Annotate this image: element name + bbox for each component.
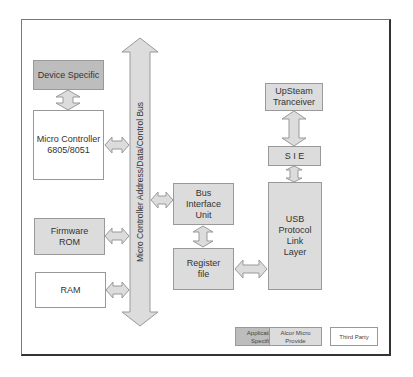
legend-third-party: Third Party bbox=[330, 327, 378, 346]
upstream-transceiver-block: UpSteam Tranceiver bbox=[265, 83, 323, 111]
sie-block: S I E bbox=[268, 146, 321, 166]
legend-alcor-micro-provide: Alcor Micro Provide bbox=[269, 327, 322, 346]
usb-protocol-link-layer-block: USB Protocol Link Layer bbox=[268, 182, 322, 290]
middle-arrows bbox=[0, 0, 413, 377]
